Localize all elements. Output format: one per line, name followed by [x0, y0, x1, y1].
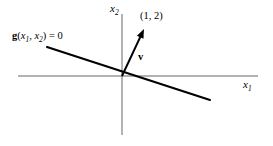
x-axis-label-subscript: 1 — [248, 84, 252, 93]
y-axis-label: x2 — [110, 3, 119, 14]
vector-point-label: (1, 2) — [140, 11, 163, 22]
x-axis-label: x1 — [243, 79, 252, 90]
constraint-var2-subscript: 2 — [39, 35, 43, 44]
constraint-equals-zero: = 0 — [46, 30, 62, 41]
vector-v-arrowhead — [137, 29, 144, 39]
constraint-line — [47, 47, 210, 100]
diagram-canvas — [0, 0, 273, 146]
vector-v-label: v — [138, 52, 143, 63]
constraint-var1-subscript: 1 — [25, 35, 29, 44]
constraint-gradient-diagram: x2 x1 g(x1, x2) = 0 (1, 2) v — [0, 0, 273, 146]
y-axis-label-subscript: 2 — [115, 8, 119, 17]
constraint-equation-label: g(x1, x2) = 0 — [12, 31, 63, 42]
